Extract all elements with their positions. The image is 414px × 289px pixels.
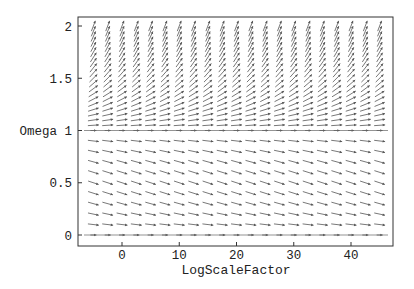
x-axis: 010203040: [118, 242, 358, 263]
x-tick-label: 30: [286, 249, 301, 263]
x-tick-label: 40: [343, 249, 358, 263]
y-tick-label: 0: [64, 230, 72, 244]
y-tick-label: 2: [64, 21, 72, 35]
y-tick-label: Omega 1: [19, 125, 72, 139]
vector-field-arrows: [84, 21, 388, 236]
x-tick-label: 10: [172, 249, 187, 263]
x-tick-label: 20: [229, 249, 244, 263]
plot-frame: [78, 17, 393, 246]
y-axis: 00.5Omega 11.52: [19, 21, 82, 244]
vector-field-chart: 00.5Omega 11.52 010203040 LogScaleFactor: [0, 0, 414, 289]
x-tick-label: 0: [118, 249, 126, 263]
y-tick-label: 1.5: [49, 73, 72, 87]
x-axis-label: LogScaleFactor: [181, 263, 290, 278]
y-tick-label: 0.5: [49, 177, 72, 191]
